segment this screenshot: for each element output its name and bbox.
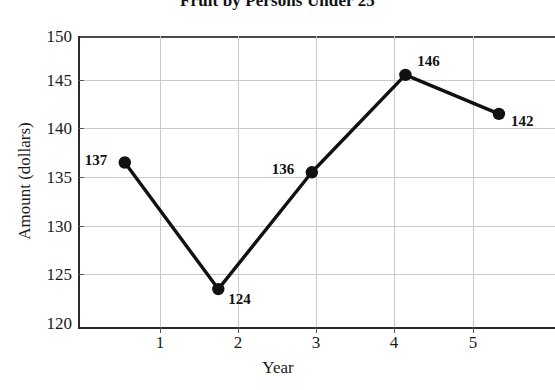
y-tick-label-150: 150 bbox=[26, 28, 72, 45]
data-point-year-3[interactable] bbox=[306, 166, 318, 178]
x-tick-label-2: 2 bbox=[218, 334, 258, 351]
plot-area: 137 124 136 146 142 bbox=[78, 36, 555, 328]
y-tick-label-140: 140 bbox=[26, 120, 72, 137]
data-label-year-1: 137 bbox=[85, 153, 108, 168]
data-point-year-5[interactable] bbox=[493, 108, 505, 120]
data-point-year-1[interactable] bbox=[119, 156, 131, 168]
x-axis-title: Year bbox=[78, 358, 478, 378]
data-label-year-3: 136 bbox=[272, 162, 295, 177]
data-label-year-2: 124 bbox=[228, 292, 251, 307]
data-label-year-5: 142 bbox=[511, 114, 534, 129]
x-tick-label-4: 4 bbox=[374, 334, 414, 351]
y-tick-label-130: 130 bbox=[26, 218, 72, 235]
y-axis-tick-labels: 150 145 140 135 130 125 120 bbox=[20, 36, 72, 328]
chart-title: Fruit by Persons Under 25 bbox=[0, 0, 555, 11]
data-point-year-4[interactable] bbox=[399, 69, 411, 81]
line-chart-figure: Fruit by Persons Under 25 Amount (dollar… bbox=[0, 0, 555, 390]
x-axis-tick-labels: 1 2 3 4 5 bbox=[78, 334, 555, 358]
data-label-year-4: 146 bbox=[417, 54, 440, 69]
y-tick-label-145: 145 bbox=[26, 72, 72, 89]
y-tick-label-135: 135 bbox=[26, 169, 72, 186]
data-series-line bbox=[78, 36, 555, 328]
data-point-year-2[interactable] bbox=[212, 283, 224, 295]
y-tick-label-120: 120 bbox=[26, 315, 72, 332]
x-tick-label-1: 1 bbox=[140, 334, 180, 351]
y-tick-label-125: 125 bbox=[26, 266, 72, 283]
series-polyline bbox=[125, 75, 499, 289]
x-tick-label-5: 5 bbox=[453, 334, 493, 351]
x-tick-label-3: 3 bbox=[296, 334, 336, 351]
